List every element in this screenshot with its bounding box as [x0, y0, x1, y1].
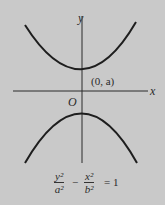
lower-branch	[25, 114, 137, 164]
upper-branch	[25, 22, 136, 69]
minus-sign: −	[72, 176, 78, 188]
equals-one: = 1	[104, 176, 118, 188]
y-axis-label: y	[77, 11, 84, 25]
origin-label: O	[68, 95, 77, 109]
vertex-label: (0, a)	[91, 75, 115, 88]
x-axis-label: x	[149, 84, 156, 98]
x-term-denominator: b²	[85, 183, 94, 195]
y-term-numerator: y²	[54, 170, 64, 183]
y-term-denominator: a²	[55, 183, 64, 195]
x-term-numerator: x²	[84, 170, 94, 183]
x-term: x² b²	[84, 170, 94, 195]
y-term: y² a²	[54, 170, 64, 195]
hyperbola-equation: y² a² − x² b² = 1	[52, 170, 132, 200]
